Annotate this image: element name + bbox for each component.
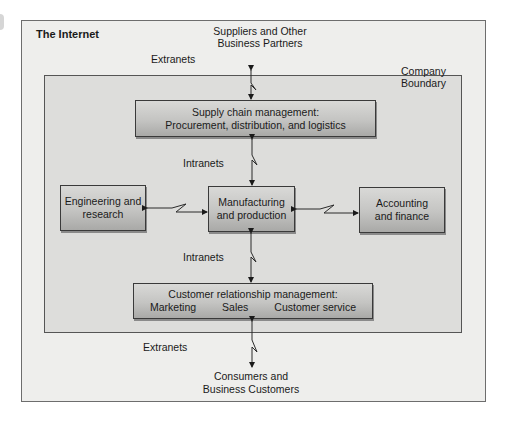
link-engineering-manufacturing: [147, 204, 207, 212]
link-manufacturing-accounting: [296, 205, 358, 213]
connector-lines: [0, 0, 506, 427]
extranet-link-suppliers: [251, 70, 256, 99]
intranet-link-manufacturing-crm: [251, 233, 256, 282]
intranet-link-supply-manufacturing: [252, 139, 257, 185]
extranet-link-customers: [252, 321, 257, 367]
